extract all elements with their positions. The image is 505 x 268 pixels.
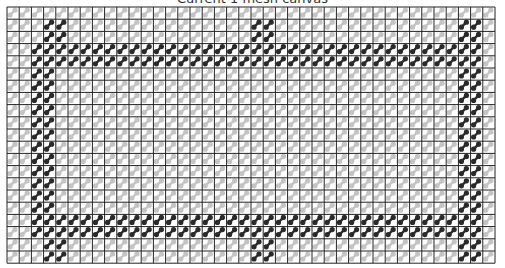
dark-node — [386, 215, 396, 225]
light-node — [251, 81, 261, 91]
light-node — [117, 105, 127, 115]
light-node — [410, 129, 420, 139]
light-node — [203, 251, 213, 261]
light-node — [325, 203, 335, 213]
light-node — [129, 105, 139, 115]
light-node — [325, 105, 335, 115]
light-node — [227, 251, 237, 261]
light-node — [276, 166, 286, 176]
light-node — [434, 93, 444, 103]
light-node — [300, 239, 310, 249]
dark-node — [142, 215, 152, 225]
light-node — [386, 117, 396, 127]
dark-node — [105, 215, 115, 225]
light-node — [190, 81, 200, 91]
light-node — [386, 166, 396, 176]
light-node — [215, 239, 225, 249]
light-node — [142, 190, 152, 200]
light-node — [398, 129, 408, 139]
dark-node — [398, 215, 408, 225]
light-node — [349, 239, 359, 249]
light-node — [190, 166, 200, 176]
light-node — [7, 154, 17, 164]
dark-node — [154, 215, 164, 225]
light-node — [398, 68, 408, 78]
light-node — [129, 178, 139, 188]
dark-node — [471, 227, 481, 237]
dark-node — [251, 239, 261, 249]
dark-node — [178, 56, 188, 66]
light-node — [93, 129, 103, 139]
dark-node — [361, 227, 371, 237]
light-node — [288, 68, 298, 78]
light-node — [300, 32, 310, 42]
light-node — [81, 166, 91, 176]
light-node — [434, 142, 444, 152]
light-node — [264, 190, 274, 200]
light-node — [166, 142, 176, 152]
light-node — [7, 215, 17, 225]
light-node — [410, 117, 420, 127]
light-node — [142, 154, 152, 164]
light-node — [129, 32, 139, 42]
dark-node — [349, 56, 359, 66]
light-node — [7, 20, 17, 30]
light-node — [215, 68, 225, 78]
light-node — [373, 20, 383, 30]
light-node — [422, 117, 432, 127]
light-node — [422, 93, 432, 103]
light-node — [81, 251, 91, 261]
light-node — [434, 239, 444, 249]
dark-node — [373, 227, 383, 237]
light-node — [178, 32, 188, 42]
light-node — [56, 117, 66, 127]
light-node — [105, 93, 115, 103]
light-node — [483, 20, 493, 30]
light-node — [361, 142, 371, 152]
light-node — [190, 68, 200, 78]
light-node — [20, 68, 30, 78]
light-node — [447, 190, 457, 200]
light-node — [203, 68, 213, 78]
light-node — [239, 93, 249, 103]
light-node — [129, 7, 139, 17]
light-node — [312, 20, 322, 30]
light-node — [68, 20, 78, 30]
dark-node — [251, 32, 261, 42]
dark-node — [422, 44, 432, 54]
light-node — [300, 68, 310, 78]
light-node — [447, 251, 457, 261]
dark-node — [32, 117, 42, 127]
dark-node — [32, 105, 42, 115]
light-node — [276, 117, 286, 127]
dark-node — [471, 190, 481, 200]
light-node — [276, 105, 286, 115]
light-node — [288, 105, 298, 115]
light-node — [312, 178, 322, 188]
light-node — [203, 105, 213, 115]
light-node — [288, 129, 298, 139]
light-node — [154, 251, 164, 261]
dark-node — [361, 215, 371, 225]
light-node — [434, 81, 444, 91]
light-node — [93, 166, 103, 176]
light-node — [373, 239, 383, 249]
light-node — [483, 215, 493, 225]
light-node — [312, 251, 322, 261]
light-node — [20, 154, 30, 164]
light-node — [105, 117, 115, 127]
light-node — [93, 154, 103, 164]
light-node — [361, 93, 371, 103]
light-node — [349, 93, 359, 103]
light-node — [325, 81, 335, 91]
light-node — [7, 166, 17, 176]
dark-node — [276, 227, 286, 237]
dark-node — [44, 215, 54, 225]
light-node — [337, 105, 347, 115]
light-node — [325, 239, 335, 249]
light-node — [288, 190, 298, 200]
dark-node — [203, 56, 213, 66]
light-node — [203, 117, 213, 127]
light-node — [325, 117, 335, 127]
light-node — [105, 154, 115, 164]
